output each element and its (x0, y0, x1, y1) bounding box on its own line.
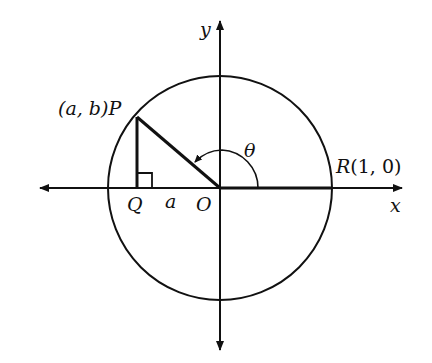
angle-theta-label: θ (244, 141, 255, 160)
point-O-label: O (196, 195, 212, 214)
right-angle-marker (137, 173, 152, 188)
point-R-name: R (336, 155, 350, 177)
unit-circle-diagram: y x (a, b)P Q a O θ R(1, 0) (0, 0, 432, 363)
point-R-label: R(1, 0) (336, 157, 401, 176)
point-Q-label: Q (127, 195, 143, 214)
x-axis-label: x (390, 196, 401, 215)
point-P-coords: (a, b) (58, 97, 108, 119)
point-R-coords: (1, 0) (350, 155, 401, 177)
point-P-name: P (108, 97, 121, 119)
point-P-label: (a, b)P (58, 99, 121, 118)
y-axis-label: y (200, 20, 211, 39)
diagram-canvas (0, 0, 432, 363)
segment-a-label: a (165, 192, 176, 211)
